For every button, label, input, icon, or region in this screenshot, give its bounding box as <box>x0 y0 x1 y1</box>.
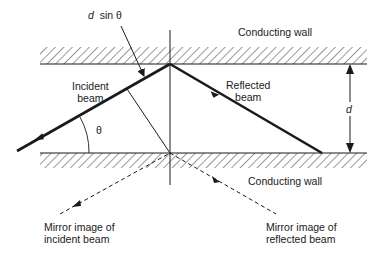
theta-arc <box>80 117 89 153</box>
sin-theta-text: sin θ <box>100 9 122 21</box>
reflected-line1: Reflected <box>226 79 270 91</box>
top-wall-label: Conducting wall <box>238 26 312 38</box>
waveguide-diagram <box>0 0 383 256</box>
mirror-incident-line1: Mirror image of <box>44 221 115 233</box>
mirror-reflected-line1: Mirror image of <box>266 221 337 233</box>
mirror-incident-line2: incident beam <box>44 233 115 245</box>
incident-beam <box>17 64 170 151</box>
reflected-line2: beam <box>226 91 270 103</box>
mirror-incident-label: Mirror image of incident beam <box>44 221 115 245</box>
d-symbol: d <box>88 9 94 21</box>
theta-label: θ <box>96 124 102 136</box>
bottom-conducting-wall <box>40 153 367 168</box>
reflected-beam-label: Reflected beam <box>226 79 270 103</box>
incident-beam-label: Incident beam <box>72 80 109 104</box>
reflected-beam <box>170 64 322 153</box>
incident-line2: beam <box>72 92 109 104</box>
separation-label: d <box>346 103 352 115</box>
perpendicular-segment <box>127 89 170 153</box>
bottom-wall-label: Conducting wall <box>248 175 322 187</box>
mirror-reflected-label: Mirror image of reflected beam <box>266 221 337 245</box>
mirror-reflected-line2: reflected beam <box>266 233 337 245</box>
top-conducting-wall <box>40 47 367 64</box>
incident-line1: Incident <box>72 80 109 92</box>
d-sin-theta-label: d sin θ <box>88 9 122 21</box>
